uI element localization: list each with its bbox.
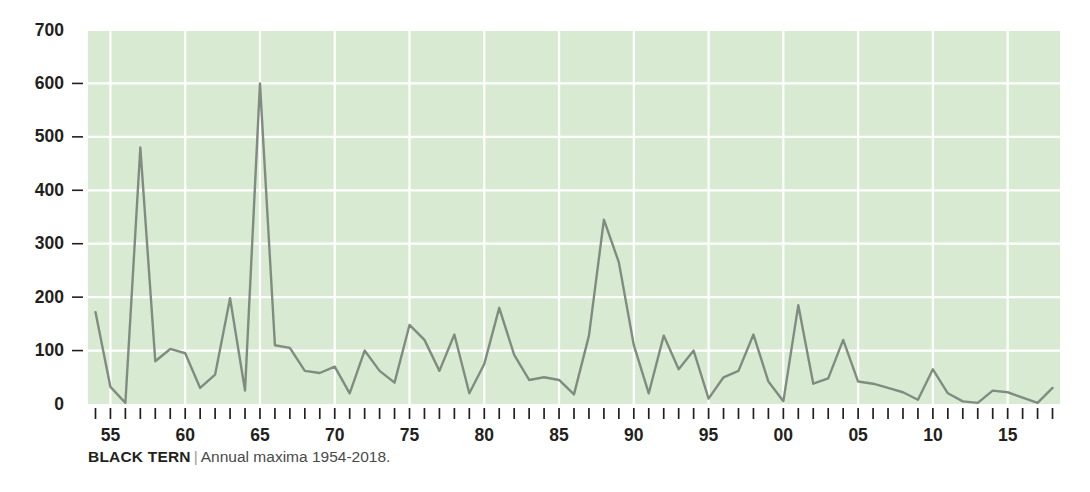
y-tick-label: 0 <box>54 394 64 414</box>
y-tick-label: 100 <box>35 340 64 360</box>
line-chart: 0100200300400500600700556065707580859095… <box>0 0 1090 492</box>
x-axis: 55606570758085909500051015 <box>95 408 1052 445</box>
y-tick-label: 300 <box>35 233 64 253</box>
x-tick-label: 95 <box>699 425 719 445</box>
caption-title: BLACK TERN <box>88 448 191 465</box>
x-tick-label: 10 <box>923 425 943 445</box>
y-tick-label: 400 <box>35 180 64 200</box>
y-tick-label: 500 <box>35 126 64 146</box>
caption-subtitle: Annual maxima 1954-2018. <box>201 448 391 465</box>
chart-figure: 0100200300400500600700556065707580859095… <box>0 0 1090 492</box>
x-tick-label: 65 <box>250 425 270 445</box>
chart-caption: BLACK TERN|Annual maxima 1954-2018. <box>88 447 390 467</box>
x-tick-label: 00 <box>774 425 794 445</box>
y-tick-label: 600 <box>35 73 64 93</box>
y-tick-label: 700 <box>35 20 64 40</box>
x-tick-label: 15 <box>998 425 1018 445</box>
plot-background <box>88 30 1060 404</box>
x-tick-label: 70 <box>325 425 345 445</box>
caption-separator: | <box>191 448 201 465</box>
x-tick-label: 05 <box>848 425 868 445</box>
y-axis: 0100200300400500600700 <box>35 20 83 414</box>
x-tick-label: 90 <box>624 425 644 445</box>
x-tick-label: 80 <box>475 425 495 445</box>
x-tick-label: 55 <box>101 425 121 445</box>
x-tick-label: 60 <box>175 425 195 445</box>
x-tick-label: 75 <box>400 425 420 445</box>
y-tick-label: 200 <box>35 287 64 307</box>
x-tick-label: 85 <box>549 425 569 445</box>
